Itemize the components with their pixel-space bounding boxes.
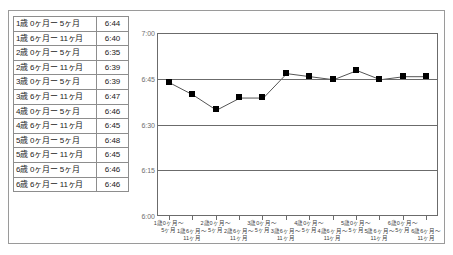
time-value-cell: 6:45 [97,148,129,163]
table-row: 1歳 6ヶ月ー 11ヶ月6:40 [14,31,129,46]
data-point-marker [189,91,195,97]
table-row: 3歳 0ヶ月ー 5ヶ月6:39 [14,75,129,90]
gridline [157,125,438,126]
time-value-cell: 6:46 [97,104,129,119]
y-axis-tick-label: 6:45 [115,75,155,82]
x-axis-label-line1: 5歳0ヶ月～ [333,220,379,227]
data-point-marker [213,106,219,112]
age-range-cell: 4歳 0ヶ月ー 5ヶ月 [14,104,97,119]
series-line [158,34,439,217]
gridline [157,170,438,171]
age-range-cell: 1歳 0ヶ月ー 5ヶ月 [14,17,97,32]
y-axis-tick-label: 6:00 [115,213,155,220]
x-axis-label-line1: 4歳0ヶ月～ [286,220,332,227]
table-row: 4歳 0ヶ月ー 5ヶ月6:46 [14,104,129,119]
age-range-cell: 3歳 6ヶ月ー 11ヶ月 [14,89,97,104]
x-axis-label-line2: 11ヶ月 [169,235,215,242]
data-point-marker [423,73,429,79]
data-point-marker [353,67,359,73]
age-range-cell: 3歳 0ヶ月ー 5ヶ月 [14,75,97,90]
y-axis-tick-label: 6:30 [115,121,155,128]
table-row: 3歳 6ヶ月ー 11ヶ月6:47 [14,89,129,104]
data-point-marker [259,94,265,100]
data-point-marker [236,94,242,100]
time-value-cell: 6:39 [97,60,129,75]
data-table-wrapper: 1歳 0ヶ月ー 5ヶ月6:441歳 6ヶ月ー 11ヶ月6:402歳 0ヶ月ー 5… [13,16,134,192]
table-row: 2歳 0ヶ月ー 5ヶ月6:35 [14,46,129,61]
table-row: 1歳 0ヶ月ー 5ヶ月6:44 [14,17,129,32]
table-row: 5歳 0ヶ月ー 5ヶ月6:48 [14,133,129,148]
data-point-marker [306,73,312,79]
time-value-cell: 6:46 [97,177,129,192]
gridline [157,79,438,80]
age-range-cell: 5歳 6ヶ月ー 11ヶ月 [14,148,97,163]
age-range-cell: 5歳 0ヶ月ー 5ヶ月 [14,133,97,148]
x-axis-label-line2: 11ヶ月 [403,235,449,242]
x-axis-label-line2: 11ヶ月 [310,235,356,242]
x-axis-label-line2: 11ヶ月 [216,235,262,242]
x-axis-label-line1: 6歳6ヶ月～ [403,228,449,235]
age-range-cell: 6歳 6ヶ月ー 11ヶ月 [14,177,97,192]
line-chart: 7:006:456:306:156:00 1歳0ヶ月～5ヶ月1歳6ヶ月～11ヶ月… [149,23,439,233]
x-axis-label-line1: 6歳0ヶ月～ [380,220,426,227]
age-range-cell: 4歳 6ヶ月ー 11ヶ月 [14,119,97,134]
table-body: 1歳 0ヶ月ー 5ヶ月6:441歳 6ヶ月ー 11ヶ月6:402歳 0ヶ月ー 5… [14,17,129,192]
wakeup-time-table: 1歳 0ヶ月ー 5ヶ月6:441歳 6ヶ月ー 11ヶ月6:402歳 0ヶ月ー 5… [13,16,129,192]
x-axis-label-line1: 2歳0ヶ月～ [193,220,239,227]
time-value-cell: 6:35 [97,46,129,61]
x-axis-label-line1: 1歳0ヶ月～ [146,220,192,227]
x-axis-label: 6歳6ヶ月～11ヶ月 [403,228,449,242]
data-point-marker [283,70,289,76]
time-value-cell: 6:48 [97,133,129,148]
x-axis-label-line2: 11ヶ月 [356,235,402,242]
age-range-cell: 6歳 0ヶ月ー 5ヶ月 [14,162,97,177]
data-point-marker [330,76,336,82]
data-point-marker [400,73,406,79]
y-axis-tick-label: 6:15 [115,167,155,174]
table-row: 6歳 0ヶ月ー 5ヶ月6:46 [14,162,129,177]
age-range-cell: 2歳 0ヶ月ー 5ヶ月 [14,46,97,61]
x-axis-label-line1: 3歳0ヶ月～ [239,220,285,227]
data-point-marker [376,76,382,82]
time-value-cell: 6:47 [97,89,129,104]
age-range-cell: 1歳 6ヶ月ー 11ヶ月 [14,31,97,46]
y-axis-tick-label: 7:00 [115,30,155,37]
table-row: 4歳 6ヶ月ー 11ヶ月6:45 [14,119,129,134]
x-axis-label-line2: 11ヶ月 [263,235,309,242]
table-row: 6歳 6ヶ月ー 11ヶ月6:46 [14,177,129,192]
table-row: 5歳 6ヶ月ー 11ヶ月6:45 [14,148,129,163]
age-range-cell: 2歳 6ヶ月ー 11ヶ月 [14,60,97,75]
x-axis-tick-mark [426,216,427,220]
table-row: 2歳 6ヶ月ー 11ヶ月6:39 [14,60,129,75]
data-point-marker [166,79,172,85]
figure-frame: 1歳 0ヶ月ー 5ヶ月6:441歳 6ヶ月ー 11ヶ月6:402歳 0ヶ月ー 5… [8,10,445,244]
